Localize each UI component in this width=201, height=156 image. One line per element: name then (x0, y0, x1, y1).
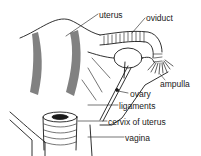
label-ampulla: ampulla (160, 80, 190, 89)
reproductive-anatomy-diagram: uterus oviduct ampulla ovary ligaments c… (0, 0, 201, 156)
label-ligaments: ligaments (119, 102, 155, 111)
label-ovary: ovary (130, 90, 151, 99)
label-vagina: vagina (125, 134, 150, 143)
label-uterus: uterus (99, 11, 123, 20)
uterus-outline (20, 19, 100, 38)
stippling (30, 30, 81, 96)
anatomy-drawing (0, 0, 201, 156)
label-oviduct: oviduct (146, 14, 173, 23)
label-cervix: cervix of uterus (108, 118, 166, 127)
